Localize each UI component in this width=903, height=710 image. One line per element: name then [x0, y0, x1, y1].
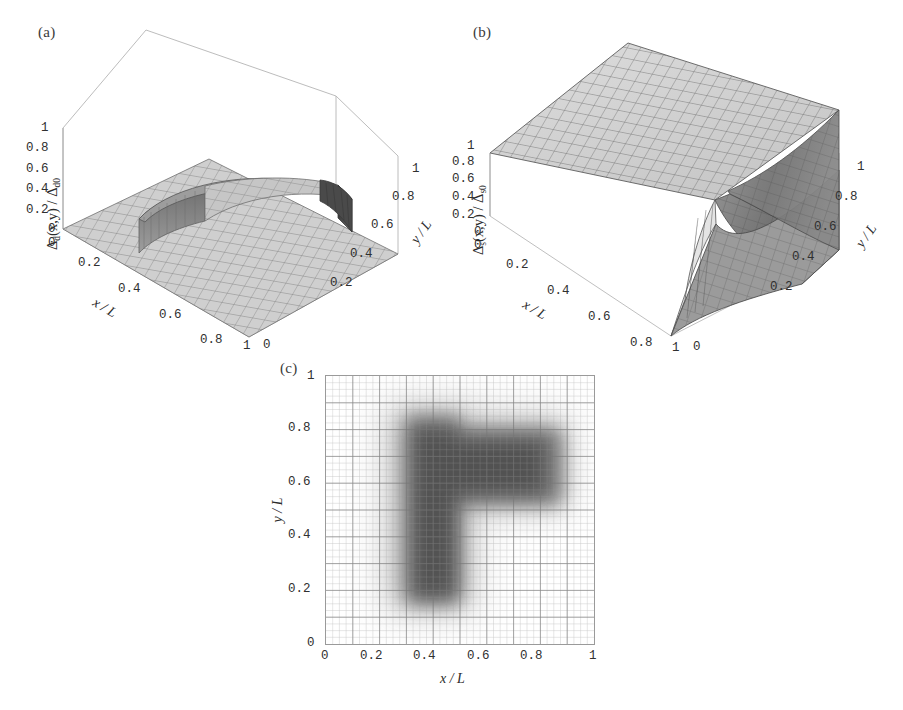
panel-a-svg: [0, 0, 452, 360]
panel-b-ztick-1: 1: [467, 139, 475, 153]
panel-c-ytick-04: 0.4: [288, 528, 311, 542]
panel-c-xtick-06: 0.6: [467, 649, 490, 663]
panel-a-ytick-06: 0.6: [371, 218, 394, 232]
panel-c: (c): [255, 355, 655, 710]
panel-b-ztick-06: 0.6: [452, 172, 475, 186]
panel-b-origin-tick: 0: [474, 238, 482, 252]
panel-a-ztick-04: 0.4: [26, 182, 49, 196]
panel-a-xtick-02: 0.2: [78, 256, 101, 270]
panel-b-xtick-06: 0.6: [588, 310, 611, 324]
panel-c-xtick-04: 0.4: [413, 649, 436, 663]
panel-c-density-svg: [326, 376, 594, 644]
panel-c-xtick-0: 0: [321, 649, 329, 663]
panel-b-ztick-08: 0.8: [452, 155, 475, 169]
panel-b-ycorner-tick: 0: [693, 340, 701, 354]
panel-b-xtick-1: 1: [672, 341, 680, 355]
panel-c-yaxis-label: y / L: [270, 480, 286, 540]
panel-c-ytick-06: 0.6: [288, 475, 311, 489]
panel-b-xtick-04: 0.4: [547, 284, 570, 298]
panel-a-xtick-1: 1: [243, 339, 251, 353]
panel-a: (a) Δd(x,y) / Δd0: [0, 0, 452, 360]
panel-c-ytick-02: 0.2: [288, 582, 311, 596]
panel-a-surface-plot: [0, 0, 452, 360]
panel-a-ztick-02: 0.2: [26, 203, 49, 217]
panel-a-ztick-08: 0.8: [26, 141, 49, 155]
panel-a-ztick-0: 0: [48, 222, 56, 236]
panel-c-xaxis-label: x / L: [440, 671, 465, 687]
panel-c-ytick-08: 0.8: [288, 421, 311, 435]
panel-a-ytick-04: 0.4: [350, 247, 373, 261]
panel-a-ztick-06: 0.6: [26, 162, 49, 176]
panel-b-ytick-08: 0.8: [835, 190, 858, 204]
panel-c-xtick-08: 0.8: [520, 649, 543, 663]
panel-a-xtick-06: 0.6: [159, 308, 182, 322]
panel-b-ztick-04: 0.4: [452, 190, 475, 204]
panel-a-ytick-02: 0.2: [330, 276, 353, 290]
panel-c-xtick-02: 0.2: [360, 649, 383, 663]
panel-b-xtick-08: 0.8: [630, 336, 653, 350]
panel-b: (b) Δs(x,y) / Δs0: [440, 0, 903, 360]
panel-b-ytick-04: 0.4: [792, 250, 815, 264]
panel-b-ytick-1: 1: [857, 160, 865, 174]
panel-b-ytick-02: 0.2: [770, 280, 793, 294]
panel-b-xtick-02: 0.2: [506, 258, 529, 272]
panel-c-xtick-1: 1: [589, 649, 597, 663]
panel-c-ytick-1: 1: [307, 369, 315, 383]
panel-a-xtick-08: 0.8: [200, 333, 223, 347]
panel-a-origin-tick: 0: [48, 236, 56, 250]
panel-a-ycorner-tick: 0: [263, 338, 271, 352]
panel-b-surface-plot: [440, 0, 903, 360]
panel-a-ytick-08: 0.8: [392, 190, 415, 204]
panel-c-label: (c): [280, 360, 298, 377]
panel-c-density-map: [326, 376, 594, 644]
panel-b-ztick-0: 0: [474, 225, 482, 239]
panel-b-ytick-06: 0.6: [814, 220, 837, 234]
panel-a-xtick-04: 0.4: [118, 282, 141, 296]
panel-c-plot-frame: [325, 375, 595, 645]
panel-a-ytick-1: 1: [412, 162, 420, 176]
panel-a-ztick-1: 1: [41, 121, 49, 135]
panel-b-ztick-02: 0.2: [452, 208, 475, 222]
panel-c-ytick-0: 0: [307, 636, 315, 650]
panel-b-svg: [440, 0, 903, 360]
